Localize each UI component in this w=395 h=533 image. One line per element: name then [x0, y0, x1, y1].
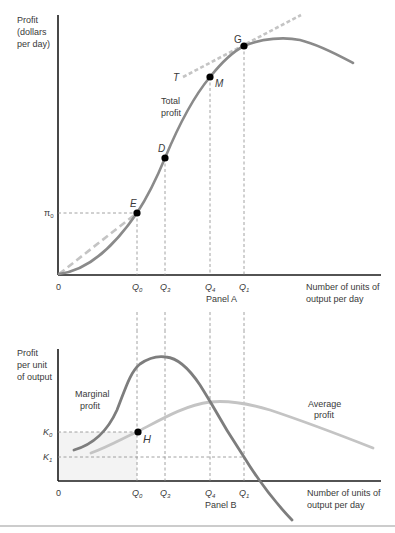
point-h — [134, 428, 141, 435]
shaded-profit-area — [59, 432, 137, 480]
average-profit-label: Average profit — [308, 399, 344, 420]
tick-q0-b: Q0 — [132, 488, 143, 499]
tick-q3-a: Q3 — [160, 282, 171, 293]
panel-b-title: Panel B — [205, 500, 237, 510]
inter-panel-guides — [137, 312, 244, 330]
panel-a-title: Panel A — [206, 294, 237, 304]
pi0-label: π0 — [44, 208, 54, 219]
panel-b: Profit per unit of output H K0 K1 Margin… — [17, 330, 383, 520]
panel-a-x-label: Number of units of output per day — [306, 282, 382, 304]
point-m — [206, 73, 213, 80]
label-g: G — [234, 34, 242, 45]
point-e — [133, 209, 140, 216]
tick-q0-a: Q0 — [132, 282, 143, 293]
panel-a-y-label: Profit (dollars per day) — [17, 15, 50, 49]
label-h: H — [143, 433, 151, 445]
ray-origin-to-e — [59, 213, 137, 274]
k0-label: K0 — [43, 427, 53, 438]
panel-b-x-label: Number of units of output per day — [307, 488, 383, 510]
panel-a-origin: 0 — [56, 282, 61, 292]
label-t: T — [173, 72, 180, 83]
label-m: M — [215, 78, 224, 89]
tick-q3-b: Q3 — [160, 488, 171, 499]
tick-q1-b: Q1 — [239, 488, 249, 499]
tick-q4-a: Q4 — [205, 282, 216, 293]
label-e: E — [130, 198, 137, 209]
panel-b-origin: 0 — [56, 488, 61, 498]
marginal-profit-label: Marginal profit — [75, 389, 112, 411]
tick-q4-b: Q4 — [205, 488, 216, 499]
total-profit-label: Total profit — [161, 96, 183, 118]
profit-diagram: Profit (dollars per day) E D M G — [0, 0, 395, 533]
k1-label: K1 — [43, 452, 52, 463]
label-d: D — [158, 143, 165, 154]
panel-b-y-label: Profit per unit of output — [17, 348, 53, 382]
tick-q1-a: Q1 — [239, 282, 249, 293]
panel-a: Profit (dollars per day) E D M G — [17, 15, 382, 304]
point-d — [161, 154, 168, 161]
